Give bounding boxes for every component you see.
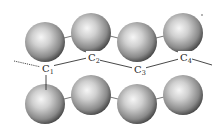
atom-sphere <box>25 84 65 124</box>
bond-c1-c2 <box>52 58 87 66</box>
sphere-row-top <box>25 13 203 62</box>
atom-sphere <box>25 22 65 62</box>
atom-sphere <box>163 13 203 53</box>
atom-sphere <box>163 75 203 115</box>
atom-sphere <box>117 84 157 124</box>
atom-sphere <box>71 75 111 115</box>
chain-continuation-right <box>192 59 212 65</box>
bond-c2-c3 <box>99 60 133 68</box>
atom-sphere <box>117 22 157 62</box>
carbon-chain-diagram: C1 C2 C3 C4 <box>0 0 224 136</box>
marker-dot <box>201 14 203 16</box>
chain-continuation-left <box>14 61 41 67</box>
bond-c3-c4 <box>145 59 179 68</box>
atom-sphere <box>71 13 111 53</box>
sphere-row-bottom <box>25 75 203 124</box>
